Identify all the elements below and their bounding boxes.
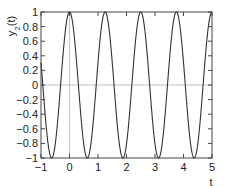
x-tick-label: 2 xyxy=(123,161,129,173)
x-tick-label: 4 xyxy=(180,161,186,173)
x-tick-label: 5 xyxy=(209,161,215,173)
y-tick-label: −0.4 xyxy=(16,108,38,120)
x-axis-label: t xyxy=(209,176,212,186)
y-tick-label: 0.4 xyxy=(23,50,38,62)
x-tick-label: 3 xyxy=(152,161,158,173)
x-tick-label: 1 xyxy=(95,161,101,173)
y-tick-label: −1 xyxy=(25,152,38,164)
reference-lines xyxy=(41,12,212,158)
x-tick-label: 0 xyxy=(66,161,72,173)
y-axis-label: y2(t) xyxy=(5,16,22,36)
y-tick-label: −0.2 xyxy=(16,94,38,106)
y-tick-label: 0.6 xyxy=(23,35,38,47)
x-axis-ticks: −1012345 xyxy=(35,12,215,173)
y-tick-label: 0.8 xyxy=(23,21,38,33)
chart: −1012345 10.80.60.40.20−0.2−0.4−0.6−0.8−… xyxy=(0,0,225,186)
y-tick-label: −0.6 xyxy=(16,123,38,135)
y-tick-label: 0.2 xyxy=(23,64,38,76)
y-tick-label: 0 xyxy=(32,79,38,91)
y-tick-label: −0.8 xyxy=(16,137,38,149)
y-tick-label: 1 xyxy=(32,6,38,18)
